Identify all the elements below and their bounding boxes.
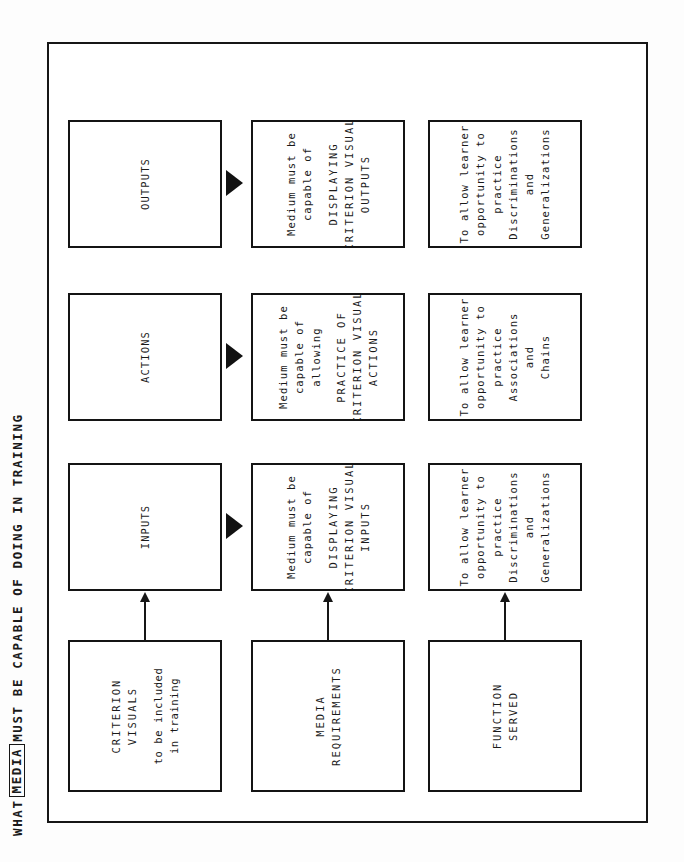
node-requirement-inputs-text: Medium must be capable of DISPLAYING CRI… [283,463,373,591]
node-source-media-requirements: MEDIA REQUIREMENTS [251,640,405,792]
derivation-arrow-head-function-icon [500,592,510,602]
node-function-outputs-text: To allow learner opportunity to practice… [456,125,554,244]
node-requirement-outputs: Medium must be capable of DISPLAYING CRI… [251,120,405,248]
node-requirement-actions-text: Medium must be capable of allowing PRACT… [275,293,382,421]
derivation-arrow-head-criterion-icon [140,592,150,602]
derivation-arrow-head-media-icon [323,592,333,602]
node-header-inputs-text: INPUTS [137,505,153,550]
node-header-outputs-text: OUTPUTS [137,158,153,210]
node-source-criterion-visuals: CRITERION VISUALS to be included in trai… [68,640,222,792]
node-requirement-outputs-text: Medium must be capable of DISPLAYING CRI… [283,120,373,248]
node-function-actions-text: To allow learner opportunity to practice… [456,298,554,417]
flow-triangle-actions-icon [226,343,243,369]
node-function-actions: To allow learner opportunity to practice… [428,293,582,421]
node-source-criterion-visuals-text: CRITERION VISUALS to be included in trai… [108,668,182,765]
node-source-media-requirements-text: MEDIA REQUIREMENTS [312,666,345,766]
figure-title-suffix: MUST BE CAPABLE OF DOING IN TRAINING [10,413,25,742]
derivation-arrow-line-criterion [144,601,146,641]
derivation-arrow-line-media [327,601,329,641]
page-background: WHAT MEDIA MUST BE CAPABLE OF DOING IN T… [0,0,684,862]
node-function-inputs-text: To allow learner opportunity to practice… [456,468,554,587]
node-requirement-inputs: Medium must be capable of DISPLAYING CRI… [251,463,405,591]
node-header-outputs: OUTPUTS [68,120,222,248]
node-header-actions: ACTIONS [68,293,222,421]
node-function-outputs: To allow learner opportunity to practice… [428,120,582,248]
flow-triangle-inputs-icon [226,513,243,539]
figure-title: WHAT MEDIA MUST BE CAPABLE OF DOING IN T… [0,0,34,862]
node-requirement-actions: Medium must be capable of allowing PRACT… [251,293,405,421]
derivation-arrow-line-function [504,601,506,641]
node-header-inputs: INPUTS [68,463,222,591]
node-header-actions-text: ACTIONS [137,331,153,383]
flow-triangle-outputs-icon [226,170,243,196]
node-source-function-served-text: FUNCTION SERVED [489,683,522,750]
figure-title-prefix: WHAT [10,799,25,836]
node-source-function-served: FUNCTION SERVED [428,640,582,792]
node-function-inputs: To allow learner opportunity to practice… [428,463,582,591]
figure-title-media-box: MEDIA [9,744,26,798]
